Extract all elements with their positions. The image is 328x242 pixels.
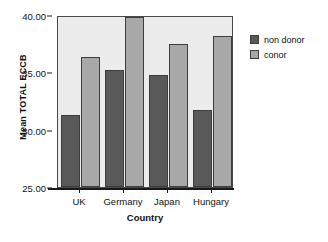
y-tick-label: 35.00	[22, 68, 46, 79]
y-tick-mark	[47, 73, 52, 74]
bar	[81, 57, 100, 187]
x-tick-label: Germany	[103, 196, 142, 207]
x-tick-label: Japan	[154, 196, 180, 207]
x-tick-mark	[123, 188, 124, 193]
legend-label: non donor	[264, 35, 305, 45]
bar-group	[146, 17, 190, 187]
x-tick-mark	[211, 188, 212, 193]
bar	[125, 17, 144, 187]
bar	[61, 115, 80, 187]
bar-group	[102, 17, 146, 187]
y-axis-ticks: 25.0030.0035.0040.00	[14, 16, 52, 188]
bar	[193, 110, 212, 187]
x-axis-line	[48, 188, 234, 190]
legend-item: non donor	[250, 34, 318, 45]
legend: non donorconor	[247, 30, 321, 68]
bars-container	[58, 17, 232, 187]
x-tick-mark	[79, 188, 80, 193]
y-tick-label: 40.00	[22, 11, 46, 22]
plot-area	[57, 16, 233, 188]
y-tick-label: 25.00	[22, 183, 46, 194]
bar	[169, 44, 188, 187]
y-tick-mark	[47, 130, 52, 131]
legend-item: conor	[250, 49, 318, 60]
bar	[213, 36, 232, 187]
y-tick-label: 30.00	[22, 125, 46, 136]
x-tick-label: UK	[72, 196, 85, 207]
legend-label: conor	[264, 50, 287, 60]
y-tick-mark	[47, 16, 52, 17]
bar	[105, 70, 124, 187]
bar-chart: Mean TOTAL ECCB 25.0030.0035.0040.00 UKG…	[0, 0, 328, 242]
legend-swatch	[250, 35, 259, 44]
x-tick-mark	[167, 188, 168, 193]
bar	[149, 75, 168, 187]
legend-swatch	[250, 50, 259, 59]
x-tick-label: Hungary	[193, 196, 229, 207]
bar-group	[190, 17, 234, 187]
bar-group	[58, 17, 102, 187]
x-axis-title: Country	[57, 212, 233, 223]
